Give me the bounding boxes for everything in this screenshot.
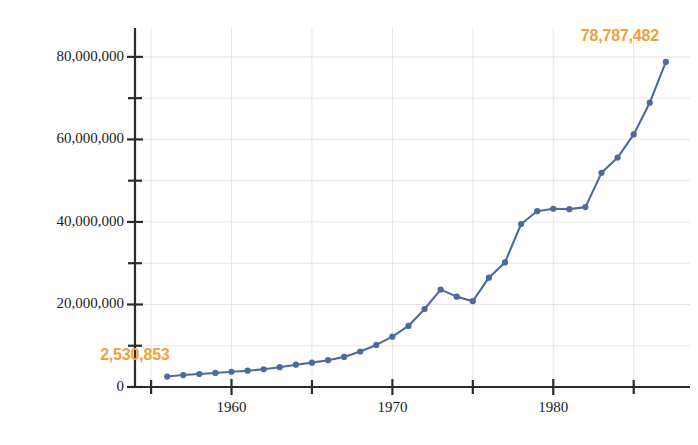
data-point-markers (164, 59, 669, 380)
first-value-annotation: 2,530,853 (100, 346, 169, 364)
x-axis-label-1980: 1980 (513, 399, 593, 416)
y-axis-label-60m: 60,000,000 (57, 130, 125, 147)
x-axis-label-1970: 1970 (352, 399, 432, 416)
last-value-annotation: 78,787,482 (581, 27, 659, 45)
axis-spines (135, 28, 690, 387)
y-axis-label-40m: 40,000,000 (57, 213, 125, 230)
y-axis-label-80m: 80,000,000 (57, 48, 125, 65)
chart-container: 80,000,000 60,000,000 40,000,000 20,000,… (0, 0, 698, 445)
data-series-line (167, 62, 666, 377)
x-axis-label-1960: 1960 (192, 399, 272, 416)
y-axis-label-0: 0 (117, 378, 125, 395)
vertical-gridlines (151, 28, 634, 387)
horizontal-gridlines (135, 57, 690, 346)
y-axis-label-20m: 20,000,000 (57, 295, 125, 312)
